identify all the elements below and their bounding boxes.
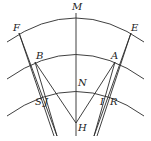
outer-arc	[7, 18, 144, 42]
label-F: F	[13, 23, 20, 33]
label-I: I	[100, 97, 104, 107]
label-R: R	[110, 97, 118, 107]
label-E: E	[131, 23, 138, 33]
label-B: B	[36, 51, 43, 61]
label-S: S	[35, 97, 42, 107]
label-N: N	[78, 78, 87, 88]
label-M: M	[72, 2, 82, 12]
label-H: H	[78, 123, 87, 133]
line-E-I	[94, 33, 131, 136]
label-J: J	[44, 97, 48, 107]
label-A: A	[111, 51, 118, 61]
geometry-diagram: M F E B A N S J I R H	[0, 0, 151, 141]
line-F-J	[19, 33, 57, 136]
inner-arc	[7, 92, 144, 117]
diagram-lines	[0, 0, 151, 141]
